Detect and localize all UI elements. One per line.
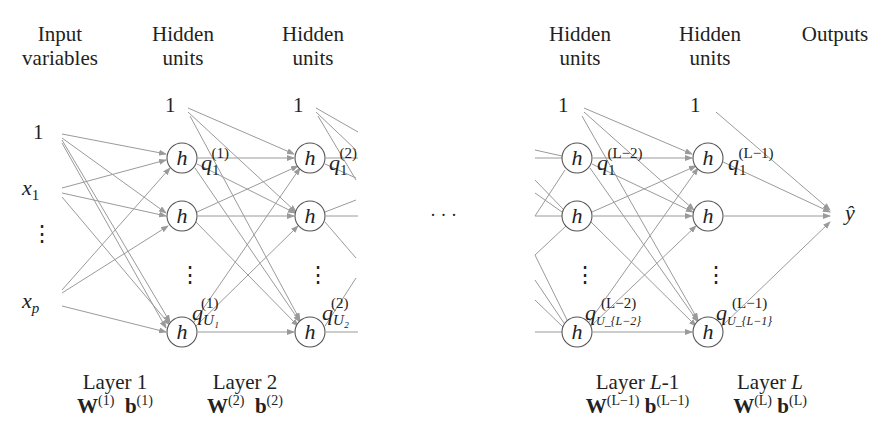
sup: (L−1): [607, 393, 640, 408]
sup: (L): [789, 393, 807, 408]
weight-symbol: W: [733, 394, 754, 418]
text: L: [650, 370, 662, 394]
text: Layer: [737, 370, 791, 394]
q-label-2-1: q1(2): [329, 150, 357, 176]
bias-symbol: b: [255, 394, 267, 418]
header-line: units: [670, 46, 750, 70]
layer-params: W(L−1) b(L−1): [565, 394, 710, 421]
sub: 1: [340, 162, 348, 178]
header-line: Hidden: [143, 22, 223, 46]
sup: (1): [98, 393, 114, 408]
layer-L-1-label: Layer L-1 W(L−1) b(L−1): [565, 370, 710, 421]
bias-unit-L-1: 1: [690, 93, 701, 118]
q-label-1-1: q1(1): [201, 150, 229, 176]
svg-text:h: h: [703, 319, 714, 344]
q: q: [597, 150, 608, 175]
sup: (L−1): [656, 393, 689, 408]
sub: 1: [608, 162, 616, 178]
q: q: [728, 150, 739, 175]
sup: (L−2): [608, 145, 643, 161]
bias-input: 1: [33, 120, 44, 145]
sub: 1: [212, 162, 220, 178]
q-label-L-2-1: q1(L−2): [597, 150, 643, 176]
svg-text:h: h: [177, 319, 188, 344]
svg-text:h: h: [572, 203, 583, 228]
q-label-L-1-U: qU_{L−1}(L−1): [716, 300, 767, 326]
layer-L-label: Layer L W(L) b(L): [715, 370, 825, 421]
input-xp: xp: [22, 288, 39, 314]
bias-unit-1: 1: [165, 93, 176, 118]
header-hidden-2: Hidden units: [273, 22, 353, 70]
q-label-L-1-1: q1(L−1): [728, 150, 774, 176]
svg-text:h: h: [305, 145, 316, 170]
sub: 1: [739, 162, 747, 178]
bias-symbol: b: [777, 394, 789, 418]
sub: U₂: [333, 312, 349, 328]
weight-symbol: W: [207, 394, 228, 418]
q: q: [716, 300, 727, 325]
sub: U₁: [203, 312, 219, 328]
layer-params: W(1) b(1): [60, 394, 170, 421]
q: q: [329, 150, 340, 175]
layer-params: W(2) b(2): [190, 394, 300, 421]
sup: (1): [137, 393, 153, 408]
hidden-dots-L-1: ⋮: [705, 262, 727, 288]
sub: U_{L−2}: [596, 314, 641, 328]
header-outputs: Outputs: [795, 22, 875, 46]
svg-text:h: h: [703, 203, 714, 228]
header-line: units: [273, 46, 353, 70]
header-line: units: [143, 46, 223, 70]
header-hidden-1: Hidden units: [143, 22, 223, 70]
svg-text:h: h: [305, 203, 316, 228]
bias-unit-2: 1: [293, 93, 304, 118]
layer-name: Layer L-1: [565, 370, 710, 394]
q-label-2-U: qU₂(2): [322, 300, 349, 326]
weight-symbol: W: [77, 394, 98, 418]
header-line: Hidden: [273, 22, 353, 46]
weight-symbol: W: [586, 394, 607, 418]
svg-text:h: h: [177, 203, 188, 228]
header-inputs: Input variables: [20, 22, 100, 70]
svg-text:h: h: [572, 145, 583, 170]
text: Layer: [596, 370, 650, 394]
sup: (2): [331, 295, 349, 311]
header-line: Hidden: [670, 22, 750, 46]
svg-text:h: h: [305, 319, 316, 344]
bias-unit-L-2: 1: [558, 93, 569, 118]
hidden-dots-1: ⋮: [179, 262, 201, 288]
layer-name: Layer 2: [190, 370, 300, 394]
sub: U_{L−1}: [727, 314, 772, 328]
text: L: [791, 370, 803, 394]
sup: (L): [754, 393, 772, 408]
q: q: [585, 300, 596, 325]
var: x: [22, 288, 32, 313]
svg-text:h: h: [572, 319, 583, 344]
sup: (2): [267, 393, 283, 408]
sup: (L−1): [732, 295, 767, 311]
svg-text:h: h: [703, 145, 714, 170]
sup: (1): [212, 145, 230, 161]
header-line: variables: [20, 46, 100, 70]
layer-2-label: Layer 2 W(2) b(2): [190, 370, 300, 421]
sup: (2): [228, 393, 244, 408]
q-label-L-2-U: qU_{L−2}(L−2): [585, 300, 636, 326]
layer-params: W(L) b(L): [715, 394, 825, 421]
sup: (L−2): [601, 295, 636, 311]
layer-name: Layer L: [715, 370, 825, 394]
output-y-hat: ŷ: [845, 200, 855, 226]
q: q: [201, 150, 212, 175]
hidden-dots-L-2: ⋮: [574, 262, 596, 288]
header-line: Input: [20, 22, 100, 46]
var: x: [22, 175, 32, 200]
input-dots: ⋮: [31, 226, 53, 242]
sup: (2): [340, 145, 358, 161]
sub: p: [32, 300, 40, 316]
layer-name: Layer 1: [60, 370, 170, 394]
header-line: Hidden: [540, 22, 620, 46]
sup: (1): [201, 295, 219, 311]
header-hidden-L-2: Hidden units: [540, 22, 620, 70]
bias-symbol: b: [645, 394, 657, 418]
input-x1: x1: [22, 175, 39, 201]
layer-ellipsis: · · ·: [430, 205, 457, 226]
text: -1: [662, 370, 680, 394]
